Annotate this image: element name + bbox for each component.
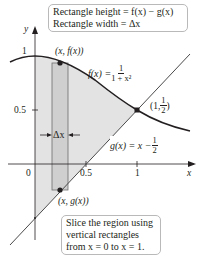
x-tick-0: 0 xyxy=(26,168,31,178)
y-axis-label: y xyxy=(24,24,28,34)
point-top-label: (x, f(x)) xyxy=(55,46,83,56)
point-top xyxy=(57,60,62,65)
slice-text-1: Slice the region using xyxy=(66,217,156,229)
x-tick-1: 1 xyxy=(135,168,140,178)
info-box-top: Rectangle height = f(x) − g(x) Rectangle… xyxy=(48,4,188,32)
origin-g-intercept xyxy=(34,217,36,219)
x-axis-arrow-icon xyxy=(188,161,196,167)
point-bottom-label: (x, g(x)) xyxy=(58,196,89,206)
intersection-label: (1, 1 2 ) xyxy=(150,96,170,115)
intersection-suffix: ) xyxy=(167,101,170,111)
y-tick-0.5: 0.5 xyxy=(14,105,26,115)
intersection-prefix: (1, xyxy=(150,101,160,111)
point-intersection xyxy=(135,108,140,113)
point-bottom xyxy=(57,187,62,192)
y-tick-1: 1 xyxy=(22,46,27,56)
g-label: g(x) = x − 1 2 xyxy=(110,136,158,155)
rect-height-text: Rectangle height = f(x) − g(x) xyxy=(53,6,183,18)
representative-rectangle xyxy=(52,63,68,190)
rect-width-text: Rectangle width = Δx xyxy=(53,18,183,30)
f-label: f(x) = 1 1 + x² xyxy=(88,64,131,83)
slice-text-3: from x = 0 to x = 1. xyxy=(66,241,156,253)
delta-x-label: Δx xyxy=(53,130,64,140)
y-axis-arrow-icon xyxy=(32,26,38,34)
x-tick-0.5: 0.5 xyxy=(80,168,92,178)
x-axis-label: x xyxy=(187,168,191,178)
info-box-bottom: Slice the region using vertical rectangl… xyxy=(61,215,161,255)
slice-text-2: vertical rectangles xyxy=(66,229,156,241)
